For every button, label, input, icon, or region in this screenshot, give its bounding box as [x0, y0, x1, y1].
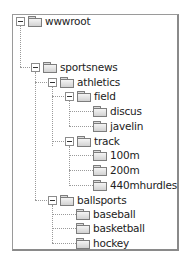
collapse-toggle-icon[interactable]	[31, 63, 40, 72]
tree-connector	[20, 26, 21, 67]
tree-connector	[52, 141, 66, 142]
node-label: baseball	[93, 208, 135, 220]
tree-connector	[52, 228, 76, 229]
tree-connector	[52, 243, 76, 244]
tree-node-ballsports[interactable]: ballsports	[48, 193, 126, 207]
collapse-toggle-icon[interactable]	[48, 196, 57, 205]
tree-node-wwwroot[interactable]: wwwroot	[16, 14, 90, 28]
tree-node-440mhurdles[interactable]: 440mhurdles	[93, 178, 177, 192]
node-label: athletics	[77, 76, 120, 88]
tree-connector	[35, 82, 49, 83]
tree-connector	[35, 72, 36, 200]
tree-connector	[52, 214, 76, 215]
tree-node-field[interactable]: field	[65, 89, 116, 103]
tree-connector	[69, 185, 93, 186]
folder-icon	[60, 195, 73, 205]
tree-connector	[69, 170, 93, 171]
tree-connector	[69, 101, 70, 126]
node-label: sportsnews	[60, 61, 118, 73]
tree-node-sportsnews[interactable]: sportsnews	[31, 60, 118, 74]
folder-icon	[93, 150, 106, 160]
collapse-toggle-icon[interactable]	[16, 17, 25, 26]
tree-connector	[69, 111, 93, 112]
tree-node-discus[interactable]: discus	[93, 104, 142, 118]
node-label: 440mhurdles	[110, 179, 177, 191]
folder-icon	[77, 136, 90, 146]
folder-icon	[77, 91, 90, 101]
folder-icon	[76, 223, 89, 233]
tree-node-athletics[interactable]: athletics	[48, 75, 120, 89]
tree-node-baseball[interactable]: baseball	[76, 207, 135, 221]
node-label: hockey	[93, 237, 129, 249]
node-label: ballsports	[77, 194, 126, 206]
node-label: field	[94, 90, 116, 102]
node-label: basketball	[93, 222, 145, 234]
tree-node-basketball[interactable]: basketball	[76, 221, 145, 235]
tree-node-javelin[interactable]: javelin	[93, 119, 143, 133]
folder-icon	[28, 16, 41, 26]
collapse-toggle-icon[interactable]	[48, 78, 57, 87]
node-label: 200m	[110, 164, 139, 176]
folder-icon	[60, 77, 73, 87]
node-label: 100m	[110, 149, 139, 161]
tree-connector	[35, 200, 49, 201]
tree-connector	[52, 96, 66, 97]
folder-tree: wwwroot sportsnews athletics field discu…	[0, 0, 191, 265]
tree-connector	[69, 146, 70, 186]
tree-node-100m[interactable]: 100m	[93, 148, 139, 162]
tree-node-hockey[interactable]: hockey	[76, 236, 129, 250]
folder-icon	[43, 62, 56, 72]
folder-icon	[76, 209, 89, 219]
node-label: wwwroot	[45, 15, 90, 27]
node-label: track	[94, 135, 120, 147]
folder-icon	[93, 121, 106, 131]
node-label: javelin	[110, 120, 143, 132]
tree-connector	[52, 205, 53, 243]
tree-node-track[interactable]: track	[65, 134, 120, 148]
folder-icon	[93, 180, 106, 190]
tree-connector	[69, 155, 93, 156]
collapse-toggle-icon[interactable]	[65, 137, 74, 146]
folder-icon	[76, 238, 89, 248]
tree-connector	[69, 126, 93, 127]
tree-node-200m[interactable]: 200m	[93, 163, 139, 177]
folder-icon	[93, 165, 106, 175]
collapse-toggle-icon[interactable]	[65, 92, 74, 101]
node-label: discus	[110, 105, 142, 117]
folder-icon	[93, 106, 106, 116]
